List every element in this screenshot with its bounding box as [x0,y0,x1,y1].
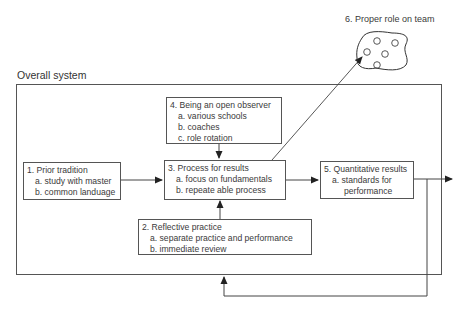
box-title: 1. Prior tradition [27,165,117,176]
box-item: c. role rotation [170,133,278,144]
box-item: a. separate practice and performance [142,233,308,244]
box-item: a. focus on fundamentals [168,174,282,185]
box-item: b. repeate able process [168,185,282,196]
box-process-for-results: 3. Process for results a. focus on funda… [164,160,286,200]
box-item: b. common landuage [27,187,117,198]
box-title: 5. Quantitative results [324,164,410,175]
team-label: 6. Proper role on team [345,14,435,25]
overall-system-label: Overall system [17,70,86,81]
box-prior-tradition: 1. Prior tradition a. study with master … [23,162,121,200]
box-item: b. immediate review [142,244,308,255]
box-item: performance [324,186,410,197]
box-title: 3. Process for results [168,163,282,174]
box-item: a. various schools [170,111,278,122]
box-title: 2. Reflective practice [142,222,308,233]
box-item: a. study with master [27,176,117,187]
team-member-icons [364,38,399,69]
edge-process-to-team [272,57,362,160]
box-reflective-practice: 2. Reflective practice a. separate pract… [138,219,312,255]
box-quantitative-results: 5. Quantitative results a. standards for… [320,161,414,199]
box-title: 4. Being an open observer [170,100,278,111]
box-item: a. standards for [324,175,410,186]
box-open-observer: 4. Being an open observer a. various sch… [166,97,282,144]
diagram-canvas [0,0,464,311]
box-item: b. coaches [170,122,278,133]
